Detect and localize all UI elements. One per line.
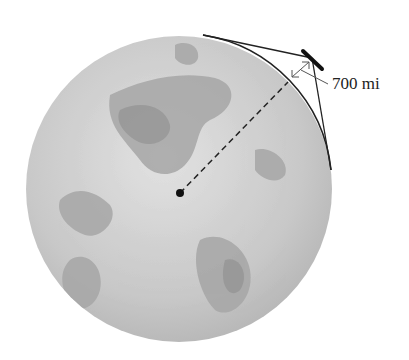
altitude-label: 700 mi xyxy=(332,74,380,94)
earth-satellite-diagram xyxy=(0,0,409,360)
earth-globe xyxy=(26,36,332,342)
altitude-dimension xyxy=(292,62,328,84)
earth-center-dot xyxy=(176,189,184,197)
satellite-icon xyxy=(303,51,322,69)
